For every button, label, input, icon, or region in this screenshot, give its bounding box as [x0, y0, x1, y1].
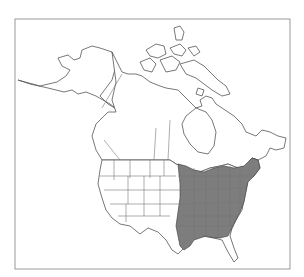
arctic-island — [140, 58, 156, 72]
alaska-outline — [18, 46, 118, 110]
arctic-island — [174, 26, 184, 40]
land-layer — [18, 26, 286, 262]
arctic-island — [188, 46, 200, 56]
arctic-island — [160, 56, 180, 72]
map-svg — [0, 0, 304, 277]
arctic-island — [180, 60, 230, 96]
arctic-island — [196, 88, 204, 96]
arctic-island — [146, 44, 166, 58]
range-map-figure — [0, 0, 304, 277]
arctic-island — [170, 44, 186, 56]
